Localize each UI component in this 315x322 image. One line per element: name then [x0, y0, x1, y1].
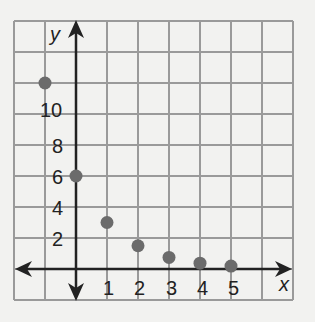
- x-tick-4: 4: [197, 278, 208, 298]
- axes: [15, 20, 292, 301]
- x-tick-2: 2: [134, 278, 145, 298]
- x-tick-1: 1: [103, 278, 114, 298]
- data-point: [225, 260, 238, 273]
- coordinate-plane: [0, 0, 315, 322]
- y-tick-4: 4: [52, 198, 63, 218]
- y-tick-6: 6: [52, 167, 63, 187]
- data-point: [70, 170, 83, 183]
- data-point: [39, 77, 52, 90]
- y-axis-label: y: [50, 24, 60, 44]
- y-tick-10: 10: [40, 100, 62, 120]
- data-point: [132, 239, 145, 252]
- grid-lines: [14, 21, 293, 300]
- x-axis-label: x: [279, 274, 289, 294]
- data-point: [163, 251, 176, 264]
- data-point: [101, 216, 114, 229]
- x-tick-3: 3: [166, 278, 177, 298]
- y-tick-8: 8: [52, 136, 63, 156]
- data-point: [194, 257, 207, 270]
- y-tick-2: 2: [52, 229, 63, 249]
- x-tick-5: 5: [228, 278, 239, 298]
